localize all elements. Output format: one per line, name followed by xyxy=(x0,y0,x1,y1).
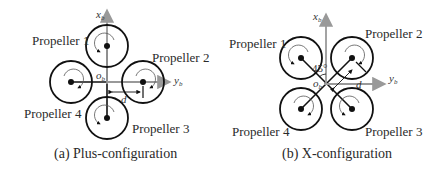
propeller-1-label: Propeller 1 xyxy=(32,33,89,48)
propeller-3-label: Propeller 3 xyxy=(365,124,422,139)
dimension-tick xyxy=(356,62,366,72)
panel-x-configuration: 45° d xb yb ob Propeller 1 Propeller 2 P… xyxy=(229,10,422,162)
arm-length-label: d xyxy=(356,78,362,90)
rotation-arrow-icon xyxy=(136,69,156,88)
angle-label: 45° xyxy=(312,62,327,74)
rotation-arrow-icon xyxy=(64,69,84,88)
propeller-1-label: Propeller 1 xyxy=(229,36,286,51)
angle-arc xyxy=(319,74,326,77)
propeller-2-label: Propeller 2 xyxy=(365,26,422,41)
origin-label: ob xyxy=(96,69,106,83)
propeller-3-label: Propeller 3 xyxy=(132,121,189,136)
yb-axis-label: yb xyxy=(388,72,398,86)
rotation-arrow-icon xyxy=(94,105,114,124)
propeller-2-rotor xyxy=(331,37,373,79)
yb-axis-label: yb xyxy=(173,74,183,88)
quadrotor-configuration-figure: d xb yb ob Propeller 1 Propeller 2 Prope… xyxy=(0,0,437,172)
rotation-arrow-icon xyxy=(94,33,114,52)
caption-plus-configuration: (a) Plus-configuration xyxy=(54,146,177,162)
propeller-4-label: Propeller 4 xyxy=(24,106,82,121)
arm-length-label: d xyxy=(121,93,127,105)
propeller-4-label: Propeller 4 xyxy=(232,124,290,139)
xb-axis-label: xb xyxy=(95,8,105,22)
caption-x-configuration: (b) X-configuration xyxy=(282,146,392,162)
xb-axis-label: xb xyxy=(312,10,322,24)
panel-plus-configuration: d xb yb ob Propeller 1 Propeller 2 Prope… xyxy=(24,8,209,162)
propeller-2-label: Propeller 2 xyxy=(152,50,209,65)
